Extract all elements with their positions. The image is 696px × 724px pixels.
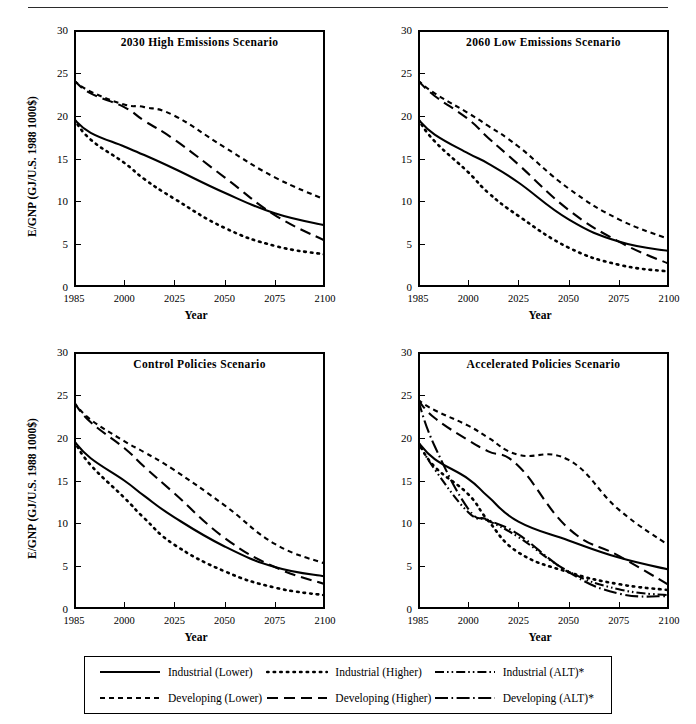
series-lines <box>0 0 696 724</box>
x-tick-label: 2100 <box>315 615 336 626</box>
x-tick-label: 2050 <box>558 615 579 626</box>
y-tick-label: 15 <box>44 475 68 487</box>
y-tick-label: 0 <box>44 281 68 293</box>
page-header-rule <box>28 7 668 8</box>
x-tick-mark <box>124 602 125 608</box>
panel-title: 2060 Low Emissions Scenario <box>418 36 669 48</box>
y-tick-mark <box>75 116 81 117</box>
series-line-shortdash <box>418 400 669 546</box>
x-tick-label: 2025 <box>164 615 185 626</box>
x-tick-label: 2050 <box>214 615 235 626</box>
y-tick-label: 5 <box>44 560 68 572</box>
chart-panel-2: 2060 Low Emissions Scenario3025201510501… <box>0 0 696 724</box>
y-tick-mark <box>75 438 81 439</box>
x-tick-mark <box>468 280 469 286</box>
y-tick-label: 5 <box>388 238 412 250</box>
y-axis-label: E/GNP (GJ/U.S. 1988 1000$) <box>26 96 38 237</box>
x-tick-label: 2050 <box>214 293 235 304</box>
legend-line-sample-shortdash <box>99 693 161 703</box>
x-tick-mark <box>569 602 570 608</box>
series-line-dotted <box>418 119 669 271</box>
y-tick-label: 0 <box>388 603 412 615</box>
series-lines <box>0 0 696 724</box>
y-tick-mark <box>75 244 81 245</box>
y-tick-mark <box>75 523 81 524</box>
y-tick-label: 10 <box>44 195 68 207</box>
y-tick-mark <box>75 159 81 160</box>
y-tick-label: 30 <box>44 24 68 36</box>
legend: Industrial (Lower)Industrial (Higher)Ind… <box>84 656 612 714</box>
panel-title: Accelerated Policies Scenario <box>418 358 669 370</box>
x-tick-label: 2000 <box>114 615 135 626</box>
x-tick-label: 2000 <box>458 293 479 304</box>
x-tick-label: 2100 <box>315 293 336 304</box>
x-tick-mark <box>174 602 175 608</box>
series-line-longdash <box>74 81 325 241</box>
y-tick-label: 20 <box>44 432 68 444</box>
y-tick-label: 0 <box>388 281 412 293</box>
y-tick-label: 15 <box>388 153 412 165</box>
x-axis-label: Year <box>529 309 552 321</box>
plot-frame <box>74 30 325 287</box>
y-tick-mark <box>419 244 425 245</box>
y-tick-label: 10 <box>388 195 412 207</box>
x-tick-label: 1985 <box>64 293 85 304</box>
plot-frame <box>418 352 669 609</box>
x-tick-mark <box>275 280 276 286</box>
x-tick-mark <box>468 602 469 608</box>
legend-label: Industrial (Lower) <box>168 666 253 678</box>
panel-title: 2030 High Emissions Scenario <box>74 36 325 48</box>
series-line-dashdot <box>418 400 669 597</box>
x-tick-label: 2075 <box>264 615 285 626</box>
y-tick-mark <box>419 481 425 482</box>
y-tick-label: 0 <box>44 603 68 615</box>
x-tick-label: 1985 <box>408 615 429 626</box>
x-axis-label: Year <box>529 631 552 643</box>
y-tick-mark <box>419 201 425 202</box>
legend-label: Developing (Lower) <box>168 692 262 704</box>
series-line-dotted <box>74 119 325 254</box>
x-tick-label: 2025 <box>508 615 529 626</box>
y-tick-mark <box>419 395 425 396</box>
y-tick-label: 20 <box>388 110 412 122</box>
series-line-shortdash <box>74 403 325 564</box>
legend-line-sample-solid <box>99 667 161 677</box>
y-tick-label: 25 <box>388 389 412 401</box>
y-tick-mark <box>75 481 81 482</box>
y-tick-label: 5 <box>388 560 412 572</box>
x-tick-mark <box>225 602 226 608</box>
series-line-dashdotdot <box>418 442 669 595</box>
chart-panel-4: Accelerated Policies Scenario30252015105… <box>0 0 696 724</box>
legend-item: Developing (Higher) <box>266 692 433 704</box>
legend-item: Industrial (Lower) <box>99 666 266 678</box>
y-tick-mark <box>419 523 425 524</box>
legend-label: Industrial (Higher) <box>335 666 422 678</box>
legend-line-sample-dashdot <box>434 693 496 703</box>
x-tick-label: 2025 <box>508 293 529 304</box>
legend-line-sample-dotted <box>266 667 328 677</box>
series-line-solid <box>74 119 325 225</box>
legend-label: Developing (ALT)* <box>503 692 594 704</box>
series-lines <box>0 0 696 724</box>
series-line-solid <box>74 441 325 576</box>
x-tick-label: 2050 <box>558 293 579 304</box>
y-tick-label: 10 <box>388 517 412 529</box>
plot-frame <box>74 352 325 609</box>
series-line-solid <box>418 119 669 251</box>
x-tick-label: 2075 <box>264 293 285 304</box>
legend-item: Developing (ALT)* <box>434 692 601 704</box>
y-tick-mark <box>75 73 81 74</box>
panel-title: Control Policies Scenario <box>74 358 325 370</box>
x-tick-mark <box>569 280 570 286</box>
y-tick-mark <box>419 566 425 567</box>
x-tick-label: 1985 <box>64 615 85 626</box>
y-tick-mark <box>75 395 81 396</box>
chart-panel-1: 2030 High Emissions Scenario302520151050… <box>0 0 696 724</box>
x-tick-label: 2100 <box>659 615 680 626</box>
legend-line-sample-dashdotdot <box>434 667 496 677</box>
x-tick-mark <box>124 280 125 286</box>
x-tick-label: 2000 <box>458 615 479 626</box>
x-tick-label: 2100 <box>659 293 680 304</box>
series-line-longdash <box>418 81 669 264</box>
x-tick-label: 2075 <box>608 293 629 304</box>
